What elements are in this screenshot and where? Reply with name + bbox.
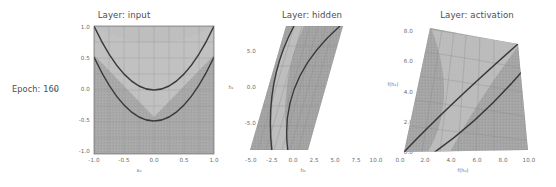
plot-panel-hidden: Layer: hidden 5.0 0.0 -5.0 h₁ -5.0 -2.5 …	[228, 0, 388, 187]
plot-panel-activation: Layer: activation 8.0 6.0 4.0 2.0 0.0 f(…	[388, 0, 556, 187]
plot-area-input	[0, 0, 228, 187]
figure-canvas: Epoch: 160 Layer: input 1.0 0.5 0.0 -0.5…	[0, 0, 556, 187]
plot-area-activation	[388, 0, 556, 187]
plot-area-hidden	[228, 0, 388, 187]
plot-panel-input: Layer: input 1.0 0.5 0.0 -0.5 -1.0 x₁ -1…	[0, 0, 228, 187]
